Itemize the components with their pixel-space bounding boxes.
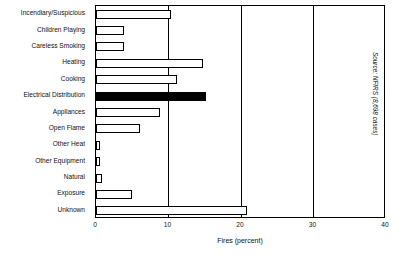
category-label-other-heat: Other Heat xyxy=(0,140,85,148)
bar-heating xyxy=(96,59,203,68)
bar-appliances xyxy=(96,108,160,117)
table-row xyxy=(96,141,386,150)
bar-other-equipment xyxy=(96,157,100,166)
x-tick-30: 30 xyxy=(309,221,316,228)
bar-electrical-distribution xyxy=(96,92,206,101)
category-label-incendiary-suspicious: Incendiary/Suspicious xyxy=(0,9,85,17)
x-tick-0: 0 xyxy=(93,221,97,228)
category-label-unknown: Unknown xyxy=(0,206,85,214)
category-label-open-flame: Open Flame xyxy=(0,124,85,132)
bar-natural xyxy=(96,174,102,183)
table-row xyxy=(96,174,386,183)
bar-careless-smoking xyxy=(96,42,124,51)
table-row xyxy=(96,10,386,19)
table-row xyxy=(96,75,386,84)
table-row xyxy=(96,124,386,133)
x-axis-title: Fires (percent) xyxy=(95,237,385,244)
category-label-electrical-distribution: Electrical Distribution xyxy=(0,91,85,99)
source-note: Source: NFIRS (8,698 cases) xyxy=(372,52,379,135)
table-row xyxy=(96,42,386,51)
category-label-other-equipment: Other Equipment xyxy=(0,157,85,165)
table-row xyxy=(96,157,386,166)
plot-area xyxy=(95,5,385,218)
x-tick-20: 20 xyxy=(236,221,243,228)
x-tick-10: 10 xyxy=(164,221,171,228)
category-label-careless-smoking: Careless Smoking xyxy=(0,42,85,50)
category-label-cooking: Cooking xyxy=(0,75,85,83)
table-row xyxy=(96,108,386,117)
bar-unknown xyxy=(96,206,247,215)
table-row xyxy=(96,26,386,35)
fires-by-cause-bar-chart: Incendiary/SuspiciousChildren PlayingCar… xyxy=(0,0,400,261)
category-label-exposure: Exposure xyxy=(0,189,85,197)
bar-cooking xyxy=(96,75,177,84)
category-label-natural: Natural xyxy=(0,173,85,181)
table-row xyxy=(96,190,386,199)
category-label-appliances: Appliances xyxy=(0,108,85,116)
bar-children-playing xyxy=(96,26,124,35)
table-row xyxy=(96,59,386,68)
bar-open-flame xyxy=(96,124,140,133)
table-row xyxy=(96,92,386,101)
x-tick-40: 40 xyxy=(381,221,388,228)
bar-incendiary-suspicious xyxy=(96,10,171,19)
category-label-heating: Heating xyxy=(0,58,85,66)
bar-exposure xyxy=(96,190,132,199)
table-row xyxy=(96,206,386,215)
bar-other-heat xyxy=(96,141,100,150)
category-axis-labels: Incendiary/SuspiciousChildren PlayingCar… xyxy=(0,5,90,218)
category-label-children-playing: Children Playing xyxy=(0,26,85,34)
